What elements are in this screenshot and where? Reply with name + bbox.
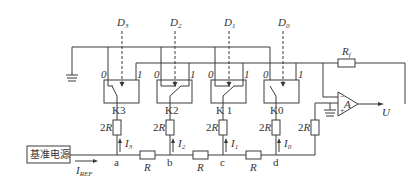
resistor-2r	[219, 120, 227, 135]
input-d0: D0	[277, 16, 290, 87]
dac-circuit-diagram: Rf D3 D2 D1 D0 0 1 K3	[0, 0, 411, 179]
svg-text:D3: D3	[116, 16, 129, 30]
ladder-rail: R R R	[70, 151, 276, 173]
resistor-r	[193, 151, 208, 159]
svg-text:2R: 2R	[100, 121, 113, 133]
feedback-resistor: Rf	[338, 45, 355, 67]
arrow-up-icon	[118, 138, 122, 143]
reference-current-label: IREF	[75, 164, 93, 178]
arrow-down-icon	[281, 82, 286, 87]
resistor-2r	[113, 120, 121, 135]
resistor-r	[246, 151, 261, 159]
svg-text:d: d	[273, 156, 279, 168]
svg-text:I3: I3	[124, 137, 133, 151]
svg-text:2R: 2R	[153, 121, 166, 133]
input-d2: D2	[169, 16, 182, 87]
reference-source: 基准电源 IREF	[27, 146, 98, 178]
svg-text:I1: I1	[230, 137, 238, 151]
svg-text:D2: D2	[169, 16, 182, 30]
arrow-up-icon	[224, 138, 228, 143]
circuit-svg: Rf D3 D2 D1 D0 0 1 K3	[0, 0, 411, 179]
resistor-2r-terminator	[311, 120, 319, 135]
svg-text:D1: D1	[223, 16, 235, 30]
svg-text:0: 0	[154, 68, 160, 80]
ground-icon	[66, 75, 78, 81]
svg-text:R: R	[143, 161, 151, 173]
resistor-2r	[166, 120, 174, 135]
svg-text:2R: 2R	[298, 121, 311, 133]
svg-text:K 1: K 1	[216, 104, 232, 116]
arrow-up-icon	[171, 138, 175, 143]
svg-text:a: a	[114, 156, 119, 168]
svg-text:K0: K0	[270, 104, 284, 116]
svg-text:I2: I2	[177, 137, 186, 151]
resistor-2r	[272, 120, 280, 135]
switch-k0: 0 1 K0	[263, 68, 304, 116]
svg-text:0: 0	[263, 68, 269, 80]
svg-text:K2: K2	[165, 104, 178, 116]
feedback-resistor-label: Rf	[341, 45, 352, 59]
svg-text:0: 0	[208, 68, 214, 80]
svg-text:2R: 2R	[259, 121, 272, 133]
svg-text:A: A	[343, 98, 351, 110]
svg-text:0: 0	[101, 68, 107, 80]
switch-k1: 0 1 K 1	[208, 68, 250, 116]
switch-k3: 0 1 K3	[101, 68, 143, 116]
svg-text:c: c	[220, 156, 225, 168]
svg-text:1: 1	[137, 68, 143, 80]
output-label: U	[382, 106, 391, 118]
arrow-right-icon	[93, 159, 98, 163]
arrow-down-icon	[120, 82, 125, 87]
svg-text:D0: D0	[277, 16, 290, 30]
input-d3: D3	[116, 16, 129, 87]
arrow-up-icon	[277, 138, 281, 143]
svg-text:b: b	[167, 156, 173, 168]
svg-text:2R: 2R	[206, 121, 219, 133]
svg-text:基准电源: 基准电源	[30, 148, 70, 160]
svg-text:1: 1	[244, 68, 250, 80]
opamp: − + A U	[324, 92, 391, 118]
svg-text:1: 1	[190, 68, 196, 80]
input-d1: D1	[223, 16, 235, 87]
resistor-r	[140, 151, 155, 159]
switch-k2: 0 1 K2	[154, 68, 196, 116]
branch-currents: I3 I2 I1 I0	[118, 137, 292, 152]
svg-text:K3: K3	[112, 104, 126, 116]
ground-icon	[324, 110, 336, 116]
svg-text:R: R	[196, 161, 204, 173]
svg-text:1: 1	[298, 68, 304, 80]
svg-text:I0: I0	[283, 137, 292, 151]
svg-text:R: R	[249, 161, 257, 173]
